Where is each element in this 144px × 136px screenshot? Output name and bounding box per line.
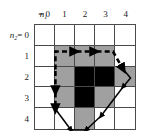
y-axis-tick-2: 2 [0,66,32,87]
grid-cell-4-3 [115,87,135,108]
x-axis-variable: n1 [40,6,48,23]
y-axis-origin-label: = 0 [17,30,29,40]
y-axis-tick-4: 4 [0,109,32,130]
grid-cell-2-0 [75,25,95,46]
y-axis-subscript: 2 [14,35,17,41]
grid-cell-4-1 [115,46,135,67]
grid-container [34,24,136,130]
grid-cell-0-3 [35,87,55,108]
grid-cell-0-2 [35,67,55,88]
y-axis-tick-1: 1 [0,45,32,66]
grid-cell-1-1 [55,46,75,67]
discrete-grid-contour-figure: n1= 0 1 2 3 4 n2= 0 1 2 3 4 [0,0,144,136]
grid-cell-1-0 [55,25,75,46]
grid-cell-4-2 [115,67,135,88]
x-axis-label-0: n1= 0 [34,6,54,22]
grid-cell-3-4 [95,108,115,129]
y-axis-variable: n2 [10,30,18,40]
grid-cell-3-3 [95,87,115,108]
y-axis-label-0: n2= 0 [0,24,32,45]
grid-cell-1-4 [55,108,75,129]
grid-cell-4-0 [115,25,135,46]
grid-cell-1-3 [55,87,75,108]
y-axis-tick-3: 3 [0,88,32,109]
x-axis-tick-2: 2 [75,6,95,22]
grid-cell-2-2 [75,67,95,88]
y-axis-labels: n2= 0 1 2 3 4 [0,24,32,130]
grid-cell-3-0 [95,25,115,46]
grid-cell-1-2 [55,67,75,88]
x-axis-tick-1: 1 [54,6,74,22]
grid-cells [35,25,135,129]
grid-cell-2-3 [75,87,95,108]
grid-cell-0-4 [35,108,55,129]
x-axis-tick-3: 3 [95,6,115,22]
grid-cell-0-1 [35,46,55,67]
x-axis-labels: n1= 0 1 2 3 4 [34,6,136,22]
grid-cell-2-4 [75,108,95,129]
grid-cell-3-1 [95,46,115,67]
x-axis-tick-4: 4 [116,6,136,22]
x-axis-subscript: 1 [44,14,47,20]
grid-cell-4-4 [115,108,135,129]
grid-cell-2-1 [75,46,95,67]
grid-cell-3-2 [95,67,115,88]
grid-cell-0-0 [35,25,55,46]
